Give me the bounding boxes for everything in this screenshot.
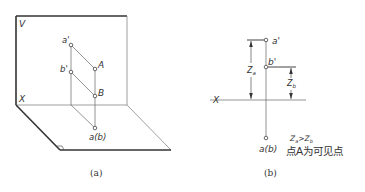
label-a-prime-b: a': [272, 36, 280, 46]
proj-line-a-prime-A: [71, 45, 95, 69]
point-a-prime: [69, 43, 73, 47]
figure-b: X a' b' a(b) Za Zb Za>Zb 点A为可见点 (b): [210, 36, 343, 178]
point-ab-b: [264, 136, 268, 140]
zb-arrow-down-icon: [289, 93, 293, 99]
label-x-b: X: [212, 95, 220, 105]
label-ab-a: a(b): [89, 132, 106, 142]
label-A: A: [97, 60, 104, 70]
label-b-prime-b: b': [268, 57, 276, 67]
zb-arrow-up-icon: [289, 68, 293, 74]
h-plane-right-edge: [127, 105, 171, 150]
label-a-prime: a': [62, 35, 70, 45]
conclusion-text: 点A为可见点: [286, 145, 343, 157]
label-x-a: X: [18, 94, 26, 104]
label-ab-b: a(b): [259, 144, 277, 154]
point-a-prime-b: [264, 38, 268, 42]
point-ab: [93, 126, 97, 130]
figure-a: V X a' b' A B a(b) (a): [16, 16, 171, 178]
point-B: [93, 94, 97, 98]
point-A: [93, 67, 97, 71]
caption-b: (b): [264, 168, 277, 178]
relation-za-gt-zb: Za>Zb: [289, 134, 313, 144]
label-B: B: [98, 88, 104, 98]
point-b-prime: [69, 70, 73, 74]
proj-line-b-prime-B: [71, 72, 95, 96]
label-v: V: [19, 19, 26, 29]
proj-line-x-to-ab: [71, 105, 95, 128]
caption-a: (a): [90, 168, 102, 178]
h-plane-left-edge: [16, 105, 60, 150]
za-arrow-down-icon: [249, 93, 253, 99]
diagram-canvas: V X a' b' A B a(b) (a) X a' b': [0, 0, 365, 192]
za-arrow-up-icon: [249, 41, 253, 47]
label-b-prime: b': [60, 64, 68, 74]
